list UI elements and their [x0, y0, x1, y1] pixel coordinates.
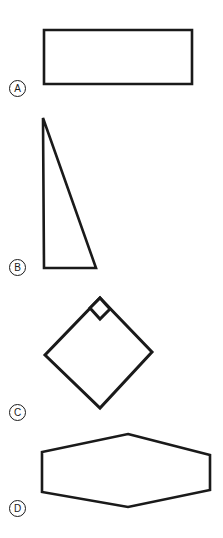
- shape-triangle-b: [0, 110, 223, 280]
- rectangle-outline: [44, 30, 192, 84]
- shape-label-d: D: [9, 500, 26, 517]
- shape-label-b: B: [9, 259, 26, 276]
- shape-hexagon-d: [0, 425, 223, 520]
- shape-rectangle-a: [0, 0, 223, 110]
- hexagon-outline: [42, 434, 210, 507]
- shape-label-a: A: [9, 80, 26, 97]
- triangle-outline: [43, 118, 96, 268]
- shape-diamond-c: [0, 285, 223, 420]
- shape-label-c: C: [9, 404, 26, 421]
- shapes-figure: A B C D: [0, 0, 223, 538]
